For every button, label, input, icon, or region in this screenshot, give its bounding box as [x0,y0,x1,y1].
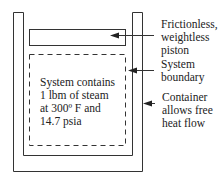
arrow-to-container [143,101,155,107]
svg-text:Container: Container [162,91,208,103]
system-description: System contains 1 lbm of steam at 300º F… [40,76,116,128]
arrowhead-icon [143,101,152,107]
arrowhead-icon [110,33,119,39]
svg-text:System: System [161,58,195,71]
svg-text:heat flow: heat flow [162,117,206,129]
svg-text:14.7 psia: 14.7 psia [40,115,82,128]
svg-text:weightless: weightless [161,31,210,44]
svg-text:1 lbm of steam: 1 lbm of steam [40,89,109,101]
arrow-to-boundary [128,68,154,74]
label-piston: Frictionless, weightless piston [161,18,218,57]
svg-text:Frictionless,: Frictionless, [161,18,218,31]
svg-text:at 300º F and: at 300º F and [40,102,101,114]
label-system-boundary: System boundary [161,58,205,84]
piston-cylinder-diagram: System contains 1 lbm of steam at 300º F… [0,0,218,179]
svg-text:System contains: System contains [40,76,116,89]
svg-text:boundary: boundary [161,71,205,84]
label-container: Container allows free heat flow [162,91,213,129]
piston [30,30,126,46]
svg-text:piston: piston [161,44,189,57]
svg-text:allows free: allows free [162,104,213,116]
